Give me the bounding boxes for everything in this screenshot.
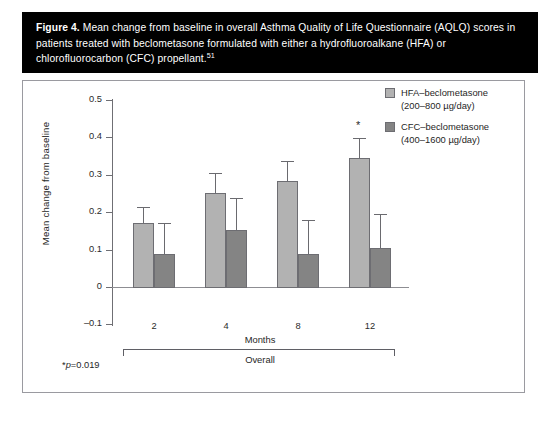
y-axis-line bbox=[112, 99, 113, 326]
significance-footnote: *p=0.019 bbox=[62, 360, 100, 370]
y-tick-label-0.2: 0.2 bbox=[62, 206, 102, 216]
y-tick-label-0.3: 0.3 bbox=[62, 169, 102, 179]
errorbar-cap-hfa-month-8 bbox=[281, 161, 294, 162]
legend-label-cfc: CFC–beclometasone bbox=[401, 120, 489, 133]
bar-hfa-month-2 bbox=[133, 223, 154, 288]
x-tick-label-month-4: 4 bbox=[206, 321, 246, 331]
bar-cfc-month-8 bbox=[298, 254, 319, 288]
bar-hfa-month-12 bbox=[349, 158, 370, 288]
y-tick-0.5 bbox=[106, 100, 112, 101]
legend-swatch-cfc-icon bbox=[385, 122, 395, 132]
x-axis-title: Months bbox=[225, 334, 295, 345]
x-tick-label-month-12: 12 bbox=[350, 321, 390, 331]
x-tick-label-month-2: 2 bbox=[134, 321, 174, 331]
y-tick-label-0.5: 0.5 bbox=[62, 94, 102, 104]
errorbar-cfc-month-2 bbox=[164, 223, 165, 254]
y-tick-0 bbox=[106, 287, 112, 288]
y-tick-0.2 bbox=[106, 212, 112, 213]
errorbar-hfa-month-2 bbox=[143, 207, 144, 223]
y-tick-0.4 bbox=[106, 137, 112, 138]
errorbar-cap-hfa-month-12 bbox=[353, 138, 366, 139]
y-tick-0.1 bbox=[106, 250, 112, 251]
chart-legend: HFA–beclometasone (200–800 µg/day) CFC–b… bbox=[385, 86, 489, 154]
errorbar-cfc-month-8 bbox=[308, 220, 309, 254]
errorbar-hfa-month-8 bbox=[287, 161, 288, 181]
y-tick-label-0.1: 0.1 bbox=[62, 244, 102, 254]
bar-chart: Mean change from baseline 0.5 0.4 0.3 0.… bbox=[0, 0, 560, 425]
errorbar-cap-hfa-month-2 bbox=[137, 207, 150, 208]
errorbar-hfa-month-4 bbox=[215, 173, 216, 193]
y-axis-title: Mean change from baseline bbox=[40, 104, 51, 264]
legend-dose-cfc: (400–1600 µg/day) bbox=[401, 133, 489, 146]
bar-cfc-month-2 bbox=[154, 254, 175, 288]
y-tick-label-0: 0 bbox=[62, 281, 102, 291]
bar-hfa-month-4 bbox=[205, 193, 226, 288]
errorbar-cap-hfa-month-4 bbox=[209, 173, 222, 174]
legend-dose-hfa: (200–800 µg/day) bbox=[401, 99, 489, 112]
y-tick-label-minus-0.1: –0.1 bbox=[62, 318, 102, 328]
significance-asterisk-month-12: * bbox=[356, 120, 360, 131]
errorbar-cap-cfc-month-8 bbox=[302, 220, 315, 221]
bar-hfa-month-8 bbox=[277, 181, 298, 288]
legend-item-hfa: HFA–beclometasone (200–800 µg/day) bbox=[385, 86, 489, 112]
errorbar-cfc-month-12 bbox=[380, 214, 381, 248]
x-tick-label-month-8: 8 bbox=[278, 321, 318, 331]
errorbar-cap-cfc-month-12 bbox=[374, 214, 387, 215]
overall-bracket-label: Overall bbox=[225, 354, 295, 365]
y-tick-minus-0.1 bbox=[106, 324, 112, 325]
y-tick-0.3 bbox=[106, 175, 112, 176]
errorbar-cap-cfc-month-4 bbox=[230, 198, 243, 199]
bar-cfc-month-4 bbox=[226, 230, 247, 288]
legend-swatch-hfa-icon bbox=[385, 88, 395, 98]
legend-item-cfc: CFC–beclometasone (400–1600 µg/day) bbox=[385, 120, 489, 146]
legend-label-hfa: HFA–beclometasone bbox=[401, 86, 489, 99]
bar-cfc-month-12 bbox=[370, 248, 391, 288]
y-tick-label-0.4: 0.4 bbox=[62, 131, 102, 141]
errorbar-cfc-month-4 bbox=[236, 198, 237, 230]
errorbar-cap-cfc-month-2 bbox=[158, 223, 171, 224]
errorbar-hfa-month-12 bbox=[359, 138, 360, 158]
footnote-p-value: =0.019 bbox=[71, 360, 100, 370]
